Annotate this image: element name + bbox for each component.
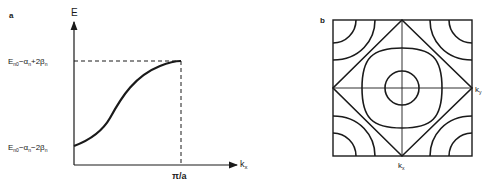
corner-arc-bl-inner <box>333 133 356 156</box>
upper-level-label: En0−αn+2βn <box>8 57 48 67</box>
corner-arc-br-inner <box>449 133 472 156</box>
corner-arc-tl-inner <box>333 20 356 43</box>
dispersion-curve <box>74 61 181 146</box>
ky-label: ky <box>475 85 482 95</box>
corner-arc-tl-outer <box>333 20 375 60</box>
y-axis-label: E <box>71 7 78 18</box>
corner-arc-tr-inner <box>449 20 472 43</box>
corner-arc-bl-outer <box>333 116 375 156</box>
panel-b-label: b <box>320 16 325 25</box>
x-tick-pi-over-a: π/a <box>172 171 187 181</box>
panel-a: a E kx En0−αn+2βn En0−αn−2βn π/a <box>8 7 248 181</box>
panel-b: b ky kx <box>320 16 482 171</box>
panel-a-label: a <box>9 11 14 20</box>
kx-label: kx <box>398 161 405 171</box>
lower-level-label: En0−αn−2βn <box>8 143 48 153</box>
x-axis-label: kx <box>240 159 248 170</box>
band-structure-figure: a E kx En0−αn+2βn En0−αn−2βn π/a b ky kx <box>0 0 487 188</box>
